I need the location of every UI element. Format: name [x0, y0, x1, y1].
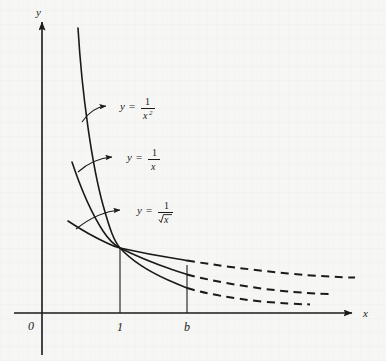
label-inv-x-squared-exponent: 2 — [149, 109, 153, 117]
label-inv-x-numerator: 1 — [152, 147, 157, 158]
y-axis-label: y — [35, 6, 41, 18]
leader-line-inv-sqrt-x — [76, 210, 120, 229]
label-inv-sqrt-x-equals: = — [146, 204, 152, 216]
label-inv-sqrt-x: y = 1 x — [136, 200, 173, 225]
label-inv-x-squared: y = 1 x 2 — [119, 96, 155, 121]
math-figure: x y 0 1 b — [0, 0, 386, 361]
label-inv-sqrt-x-numerator: 1 — [164, 200, 169, 211]
leader-inv-sqrt-x — [76, 210, 120, 229]
vertical-markers-group: 1 b — [117, 248, 190, 334]
curve-inv-sqrt-x-dashed — [187, 261, 355, 278]
label-inv-x-squared-equals: = — [129, 100, 135, 112]
label-inv-x: y = 1 x — [126, 147, 160, 172]
curve-inv-x-group — [72, 162, 332, 294]
label-inv-x-denominator: x — [150, 161, 156, 172]
curve-inv-x-squared-dashed — [187, 288, 310, 304]
curve-inv-x-squared-solid — [78, 28, 187, 288]
tick-label-b: b — [184, 320, 190, 334]
label-inv-x-equals: = — [136, 151, 142, 163]
figure-container: x y 0 1 b — [0, 0, 386, 361]
label-inv-x-squared-y: y — [119, 100, 125, 112]
label-inv-sqrt-x-denominator: x — [163, 214, 169, 225]
label-inv-x-y: y — [126, 151, 132, 163]
tick-label-1: 1 — [117, 320, 123, 334]
label-inv-sqrt-x-y: y — [136, 204, 142, 216]
origin-label: 0 — [28, 319, 34, 333]
label-inv-x-squared-numerator: 1 — [145, 96, 150, 107]
label-inv-x-squared-denominator: x — [142, 110, 148, 121]
x-axis-label: x — [362, 307, 368, 319]
curve-inv-x-squared-group — [78, 28, 310, 304]
axes-group: x y 0 — [14, 6, 368, 355]
curve-inv-x-dashed — [187, 275, 332, 295]
